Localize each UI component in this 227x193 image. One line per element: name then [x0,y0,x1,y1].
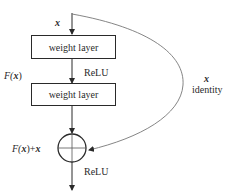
input-x-label: x [55,17,60,28]
weight-layer-1-label: weight layer [49,42,99,53]
relu-label-1: ReLU [84,67,108,78]
weight-layer-1: weight layer [31,35,116,59]
residual-function-label: F(x) [4,70,22,81]
relu-label-2: ReLU [84,166,108,177]
shortcut-x-label: x [204,73,209,84]
shortcut-identity-label: identity [192,84,223,95]
sum-label: F(x)+x [12,143,40,154]
weight-layer-2-label: weight layer [49,89,99,100]
weight-layer-2: weight layer [31,83,116,106]
